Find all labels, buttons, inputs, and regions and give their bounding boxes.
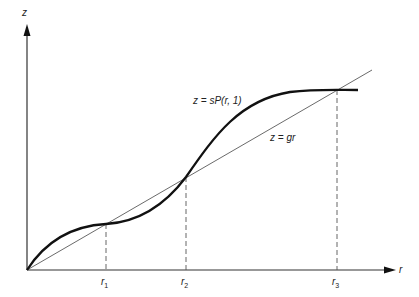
- curve-z-sP: [27, 90, 358, 270]
- r-axis-label: r: [399, 264, 402, 275]
- tick-label-r1: r1: [101, 276, 108, 289]
- diagram-canvas: [0, 0, 419, 297]
- z-axis-label: z: [22, 7, 27, 18]
- line-label: z = gr: [270, 132, 295, 143]
- curve-label: z = sP(r, 1): [193, 95, 242, 106]
- tick-label-r2: r2: [181, 276, 188, 289]
- tick-label-r3: r3: [332, 276, 339, 289]
- r-axis-arrow-icon: [384, 267, 396, 274]
- z-axis-arrow-icon: [24, 24, 31, 36]
